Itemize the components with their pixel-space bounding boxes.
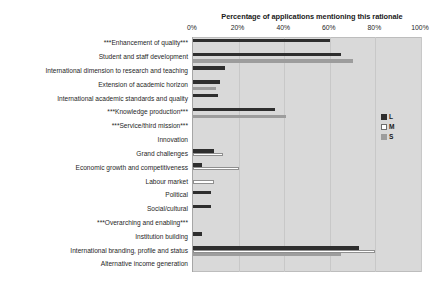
bar-l (193, 205, 211, 208)
bar-group (193, 65, 421, 79)
bar-l (193, 191, 211, 194)
bar-group (193, 148, 421, 162)
x-tick-label: 20% (231, 24, 245, 31)
chart-legend: LMS (381, 112, 415, 142)
bar-l (193, 53, 341, 56)
x-tick-label: 0% (187, 24, 197, 31)
bar-group (193, 78, 421, 92)
legend-swatch-icon (381, 134, 387, 140)
bar-group (193, 231, 421, 245)
bar-l (193, 232, 202, 235)
bar-l (193, 108, 275, 111)
bar-chart: Percentage of applications mentioning th… (0, 0, 433, 296)
category-label: International academic standards and qua… (57, 96, 188, 103)
bar-l (193, 80, 220, 83)
bar-group (193, 244, 421, 258)
bar-group (193, 37, 421, 51)
bar-s (193, 115, 286, 118)
bar-s (193, 87, 216, 90)
category-label: ***Service/third mission*** (112, 123, 188, 130)
bar-m (193, 167, 239, 170)
bar-group (193, 217, 421, 231)
x-tick-label: 60% (322, 24, 336, 31)
category-label: International dimension to research and … (45, 68, 188, 75)
category-label: Innovation (158, 137, 188, 144)
bar-s (193, 253, 341, 256)
x-tick-label: 80% (368, 24, 382, 31)
bar-group (193, 51, 421, 65)
category-axis-labels: ***Enhancement of quality***Student and … (0, 37, 190, 272)
bar-l (193, 66, 225, 69)
gridline (421, 37, 422, 272)
x-tick-label: 40% (276, 24, 290, 31)
bar-m (193, 153, 223, 156)
category-label: Grand challenges (136, 151, 188, 158)
bar-s (193, 59, 353, 62)
chart-title: Percentage of applications mentioning th… (192, 12, 432, 21)
bar-l (193, 94, 218, 97)
legend-label: M (389, 124, 395, 131)
legend-item-s[interactable]: S (381, 132, 415, 142)
category-label: Student and staff development (99, 54, 188, 61)
bar-l (193, 39, 330, 42)
category-label: Extension of academic horizon (98, 82, 188, 89)
category-label: Alternative income generation (101, 261, 188, 268)
bar-group (193, 258, 421, 272)
legend-swatch-icon (381, 124, 387, 130)
category-label: International branding, profile and stat… (70, 248, 188, 255)
legend-label: L (389, 114, 393, 121)
legend-item-m[interactable]: M (381, 122, 415, 132)
bar-group (193, 161, 421, 175)
category-label: ***Knowledge production*** (107, 109, 188, 116)
category-label: Labour market (145, 179, 188, 186)
legend-swatch-icon (381, 114, 387, 120)
category-label: Political (165, 192, 188, 199)
category-label: ***Overarching and enabling*** (97, 220, 188, 227)
category-label: Economic growth and competitiveness (75, 165, 188, 172)
legend-item-l[interactable]: L (381, 112, 415, 122)
bar-m (193, 180, 214, 183)
bar-group (193, 203, 421, 217)
plot-area (192, 37, 421, 272)
category-label: ***Enhancement of quality*** (104, 40, 188, 47)
x-axis-ticks: 0%20%40%60%80%100% (192, 24, 420, 35)
bar-group (193, 189, 421, 203)
legend-label: S (389, 134, 393, 141)
bar-group (193, 92, 421, 106)
x-tick-label: 100% (411, 24, 428, 31)
category-label: Institution building (135, 234, 188, 241)
bar-group (193, 175, 421, 189)
category-label: Social/cultural (147, 206, 188, 213)
